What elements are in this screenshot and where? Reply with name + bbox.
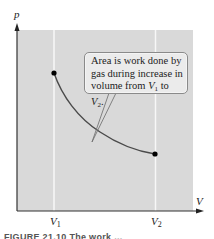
- figure-caption-fragment: FIGURE 21.10 The work ...: [4, 231, 123, 239]
- x-tick-v2-symbol: V: [151, 215, 158, 227]
- start-point-dot: [51, 70, 56, 75]
- callout-line-1: Area is work done by: [91, 55, 183, 68]
- y-axis-arrow-icon: [15, 23, 20, 31]
- x-tick-v1-symbol: V: [50, 215, 57, 227]
- pv-diagram-svg: [0, 0, 214, 239]
- x-tick-v1: V1: [50, 216, 61, 229]
- pv-diagram-figure: p V V1 V2 Area is work done by gas durin…: [0, 0, 214, 239]
- end-point-dot: [152, 151, 157, 156]
- x-tick-v2-subscript: 2: [158, 220, 162, 229]
- x-tick-v1-subscript: 1: [57, 220, 61, 229]
- callout-line-3: volume from V1 to V2.: [91, 80, 183, 111]
- work-area-callout: Area is work done by gas during increase…: [84, 52, 188, 94]
- x-axis-label: V: [196, 196, 203, 207]
- x-tick-v2: V2: [151, 216, 162, 229]
- x-axis-arrow-icon: [196, 209, 204, 214]
- callout-line-2: gas during increase in: [91, 68, 183, 81]
- callout-line-3-prefix: volume from: [91, 80, 148, 91]
- callout-line-3-suffix: .: [101, 96, 104, 107]
- callout-line-3-mid: to: [158, 80, 169, 91]
- y-axis-label: p: [14, 9, 20, 20]
